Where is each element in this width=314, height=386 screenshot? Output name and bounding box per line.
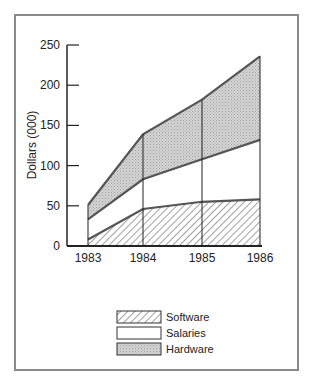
x-tick-label: 1984 [130, 251, 157, 265]
legend-swatch-salaries [117, 327, 161, 339]
y-tick-label: 150 [40, 118, 60, 132]
y-axis-label: Dollars (000) [25, 111, 39, 180]
legend-label-software: Software [166, 311, 209, 323]
legend-swatch-hardware [117, 343, 161, 355]
plot-areas [88, 56, 260, 246]
stacked-area-chart: 0501001502002501983198419851986 Dollars … [0, 0, 314, 386]
legend-label-salaries: Salaries [166, 327, 206, 339]
y-tick-label: 50 [47, 199, 61, 213]
legend: SoftwareSalariesHardware [117, 311, 214, 355]
x-tick-label: 1985 [189, 251, 216, 265]
legend-label-hardware: Hardware [166, 343, 214, 355]
y-tick-label: 0 [53, 239, 60, 253]
y-tick-label: 250 [40, 38, 60, 52]
y-tick-label: 100 [40, 159, 60, 173]
legend-swatch-software [117, 311, 161, 323]
x-tick-label: 1986 [247, 251, 274, 265]
x-tick-label: 1983 [75, 251, 102, 265]
y-tick-label: 200 [40, 78, 60, 92]
